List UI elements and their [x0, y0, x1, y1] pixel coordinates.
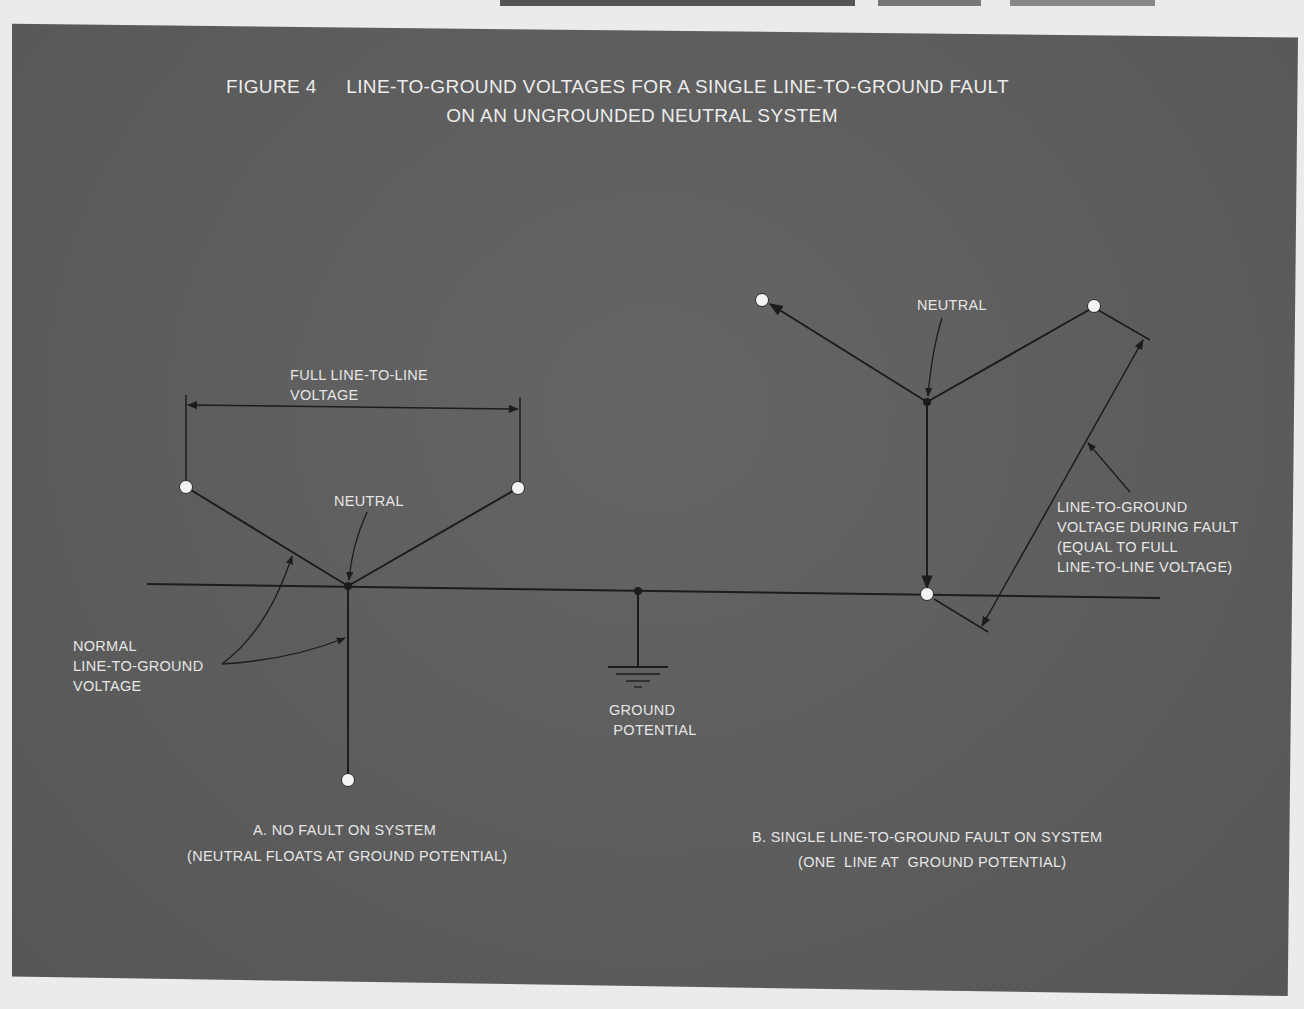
neutral-b-label: NEUTRAL — [917, 295, 987, 315]
figure-title-line2: ON AN UNGROUNDED NEUTRAL SYSTEM — [226, 101, 1066, 130]
figure-title: FIGURE 4 LINE-TO-GROUND VOLTAGES FOR A S… — [226, 72, 1066, 130]
terminal-a-right — [512, 482, 525, 495]
figure-number: FIGURE 4 — [226, 76, 317, 97]
phase-b-left — [770, 304, 927, 402]
dim-ext-top — [1098, 310, 1150, 340]
terminal-b-faulted — [921, 588, 934, 601]
fault-voltage-leader — [1088, 443, 1130, 492]
terminal-a-left — [180, 481, 193, 494]
phase-a-left — [186, 487, 348, 586]
neutral-b-leader — [928, 318, 942, 396]
neutral-a-dot — [344, 582, 352, 590]
ground-potential-label: GROUND POTENTIAL — [609, 700, 697, 740]
caption-a-line2: (NEUTRAL FLOATS AT GROUND POTENTIAL) — [187, 846, 507, 866]
neutral-a-leader — [349, 512, 367, 580]
full-voltage-dimension — [188, 405, 518, 409]
caption-b-line2: (ONE LINE AT GROUND POTENTIAL) — [798, 852, 1067, 872]
phase-b-right — [927, 307, 1094, 402]
neutral-b-dot — [923, 398, 931, 406]
ground-junction-dot — [634, 587, 642, 595]
full-voltage-label: FULL LINE-TO-LINE VOLTAGE — [290, 365, 428, 405]
fault-voltage-label: LINE-TO-GROUND VOLTAGE DURING FAULT (EQU… — [1057, 497, 1239, 577]
normal-voltage-label: NORMAL LINE-TO-GROUND VOLTAGE — [73, 636, 203, 696]
figure-title-line1: LINE-TO-GROUND VOLTAGES FOR A SINGLE LIN… — [346, 76, 1009, 97]
terminal-b-right — [1088, 300, 1101, 313]
dim-ext-bottom — [934, 599, 988, 632]
neutral-a-label: NEUTRAL — [334, 491, 404, 511]
caption-a-line1: A. NO FAULT ON SYSTEM — [253, 820, 436, 840]
fault-voltage-dimension — [982, 340, 1143, 626]
normal-voltage-leader-right — [222, 638, 345, 664]
normal-voltage-leader-up — [222, 556, 292, 664]
terminal-a-bottom — [342, 774, 355, 787]
caption-b-line1: B. SINGLE LINE-TO-GROUND FAULT ON SYSTEM — [752, 827, 1102, 847]
ground-reference-line — [147, 584, 1160, 598]
terminal-b-left — [756, 294, 769, 307]
